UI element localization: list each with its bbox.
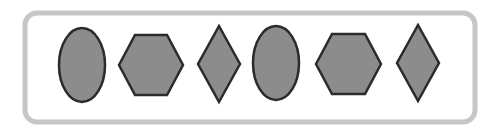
shape-sequence-diagram: [0, 0, 498, 129]
ellipse-shape-1: [59, 28, 105, 102]
ellipse-shape-4: [253, 26, 299, 100]
diagram-svg: [0, 0, 498, 129]
